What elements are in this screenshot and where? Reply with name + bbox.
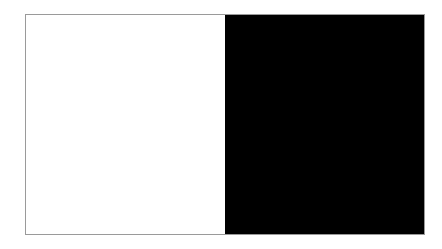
white-panel (26, 15, 225, 234)
page-canvas (0, 0, 442, 249)
black-panel (225, 15, 424, 234)
two-tone-contrast-panel (25, 14, 425, 235)
